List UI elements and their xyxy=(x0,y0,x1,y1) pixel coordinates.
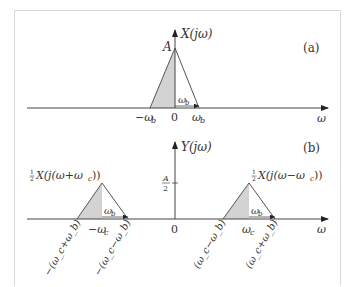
tick-neg-omega-c: −ω c xyxy=(88,223,109,237)
y-axis-label: X(jω) xyxy=(180,27,213,41)
svg-text:c: c xyxy=(104,228,109,237)
svg-text:b: b xyxy=(185,99,190,107)
svg-text:)): )) xyxy=(92,169,101,182)
svg-text:b: b xyxy=(111,210,116,218)
x-axis-label: ω xyxy=(317,112,326,125)
svg-text:2: 2 xyxy=(30,175,34,182)
half-height-label: A 2 xyxy=(162,174,170,193)
svg-text:1: 1 xyxy=(30,168,34,175)
peak-label: A xyxy=(162,40,172,54)
tick-neg-wc-plus-wb: −(ω_c+ω_b) xyxy=(42,217,84,278)
svg-text:b: b xyxy=(200,116,205,125)
left-width-label: ω b xyxy=(104,205,116,218)
svg-text:A: A xyxy=(162,174,169,183)
left-copy-label: 1 2 X(j(ω+ω c )) xyxy=(30,168,101,183)
svg-text:2: 2 xyxy=(163,184,168,193)
x-axis-label: ω xyxy=(317,223,326,236)
y-axis-label: Y(jω) xyxy=(181,140,212,154)
svg-text:2: 2 xyxy=(252,175,256,182)
right-copy-label: 1 2 X(j(ω−ω c )) xyxy=(252,168,323,183)
tick-omega-c: ω c xyxy=(242,223,255,237)
tick-neg-omega-b: −ω b xyxy=(135,111,156,125)
tick-zero: 0 xyxy=(171,223,178,236)
svg-text:X(j(ω+ω: X(j(ω+ω xyxy=(35,169,83,182)
tick-omega-b: ω b xyxy=(192,111,205,125)
svg-text:1: 1 xyxy=(252,168,256,175)
tick-wc-minus-wb: (ω_c−ω_b) xyxy=(191,217,229,270)
panel-b: Y(jω) (b) ω A 2 1 2 X(j(ω+ω c )) 1 2 X(j… xyxy=(27,140,328,278)
width-label: ω b xyxy=(178,94,190,107)
panel-tag: (a) xyxy=(303,41,320,55)
panel-tag: (b) xyxy=(303,141,320,155)
svg-text:)): )) xyxy=(314,169,323,182)
tick-zero: 0 xyxy=(171,111,178,124)
svg-text:c: c xyxy=(250,228,255,237)
svg-text:X(j(ω−ω: X(j(ω−ω xyxy=(257,169,305,182)
svg-text:b: b xyxy=(258,210,263,218)
panel-a: X(jω) A (a) ω ω b −ω b 0 ω b xyxy=(27,27,328,125)
right-width-label: ω b xyxy=(251,205,263,218)
svg-text:b: b xyxy=(151,116,156,125)
spectrum-diagram: X(jω) A (a) ω ω b −ω b 0 ω b Y(jω) (b) xyxy=(0,0,351,287)
